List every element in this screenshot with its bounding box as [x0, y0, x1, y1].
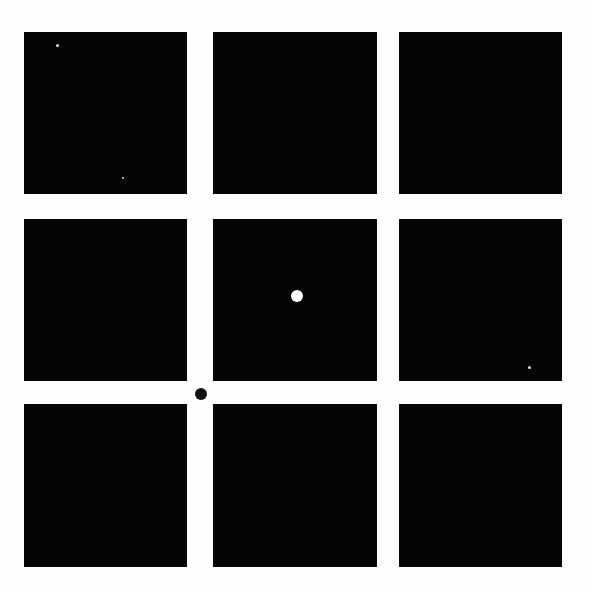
black-square-r2-c3	[399, 219, 562, 381]
noise-speck	[122, 177, 124, 179]
black-square-r2-c1	[24, 219, 187, 381]
illusion-canvas	[0, 0, 589, 589]
black-square-r3-c1	[24, 404, 187, 567]
black-square-r1-c1	[24, 32, 187, 194]
white-fixation-dot	[291, 290, 303, 302]
black-square-r1-c3	[399, 32, 562, 194]
black-square-r3-c2	[213, 404, 377, 567]
noise-speck	[56, 44, 59, 47]
black-gap-dot	[195, 388, 207, 400]
black-square-r1-c2	[213, 32, 377, 194]
noise-speck	[528, 366, 531, 369]
black-square-r3-c3	[399, 404, 562, 567]
